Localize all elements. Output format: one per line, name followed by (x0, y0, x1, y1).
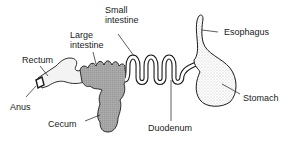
label-duodenum: Duodenum (148, 123, 192, 133)
label-cecum: Cecum (48, 119, 77, 129)
label-large-intestine-line1: Large (70, 30, 104, 40)
anus-leader (26, 86, 36, 97)
large-intestine-shape (80, 61, 127, 132)
label-rectum: Rectum (22, 55, 53, 65)
label-small-intestine-line1: Small (105, 5, 139, 15)
label-small-intestine-line2: intestine (105, 15, 139, 25)
digestive-tract-diagram (0, 0, 292, 144)
label-stomach: Stomach (243, 93, 279, 103)
esophagus-leader (202, 30, 218, 32)
large-intestine-leader (93, 52, 96, 64)
label-large-intestine: Large intestine (70, 30, 104, 50)
small-intestine-leader (118, 34, 134, 56)
label-esophagus: Esophagus (224, 27, 269, 37)
label-small-intestine: Small intestine (105, 5, 139, 25)
label-anus: Anus (10, 102, 31, 112)
label-large-intestine-line2: intestine (70, 40, 104, 50)
anus-shape (36, 77, 44, 88)
